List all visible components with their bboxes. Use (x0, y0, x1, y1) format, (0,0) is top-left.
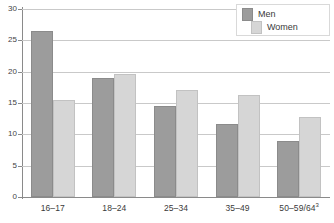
x-axis-tick-label: 50–59/643 (264, 203, 334, 213)
bar-men (154, 106, 176, 197)
y-axis-tick-label: 5 (1, 162, 17, 170)
y-axis-tick-label: 20 (1, 68, 17, 76)
bar-group (277, 9, 321, 197)
legend-swatch-men-icon (242, 8, 253, 21)
bar-women (176, 90, 198, 197)
legend-item-men: Men (242, 8, 276, 21)
bar-group (92, 9, 136, 197)
y-axis-tick-label: 15 (1, 99, 17, 107)
legend-label-women: Women (267, 23, 298, 32)
bar-group (216, 9, 260, 197)
x-axis-label-footnote: 3 (316, 202, 319, 208)
bar-women (114, 74, 136, 197)
bar-chart: 051015202530 16–1718–2425–3435–4950–59/6… (0, 0, 334, 223)
bar-men (277, 141, 299, 197)
y-axis-tick-label: 30 (1, 5, 17, 13)
gridline (22, 197, 330, 198)
legend-item-women: Women (251, 21, 298, 34)
y-axis-tick-mark (18, 103, 22, 104)
y-axis-tick-label: 25 (1, 36, 17, 44)
y-axis-tick-mark (18, 72, 22, 73)
y-axis-tick-mark (18, 40, 22, 41)
bar-group (154, 9, 198, 197)
y-axis-tick-label: 0 (1, 193, 17, 201)
x-axis-tick-label: 35–49 (203, 203, 273, 213)
y-axis-tick-mark (18, 9, 22, 10)
x-axis-tick-label: 18–24 (79, 203, 149, 213)
chart-legend: Men Women (236, 4, 330, 36)
bar-men (92, 78, 114, 197)
y-axis-tick-label: 10 (1, 130, 17, 138)
y-axis-tick-mark (18, 197, 22, 198)
y-axis-tick-mark (18, 134, 22, 135)
x-axis-tick-label: 16–17 (18, 203, 88, 213)
bar-women (238, 95, 260, 197)
legend-label-men: Men (258, 10, 276, 19)
y-axis-tick-mark (18, 166, 22, 167)
bar-men (216, 124, 238, 197)
bar-women (53, 100, 75, 197)
legend-swatch-women-icon (251, 21, 262, 34)
bar-group (31, 9, 75, 197)
x-axis-tick-label: 25–34 (141, 203, 211, 213)
plot-area (22, 9, 330, 197)
bar-women (299, 117, 321, 197)
bar-men (31, 31, 53, 197)
